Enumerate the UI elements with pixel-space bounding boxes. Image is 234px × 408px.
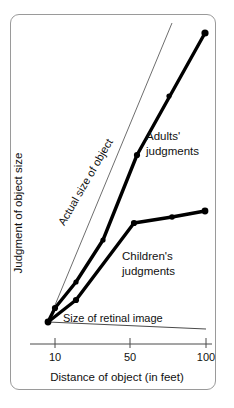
data-point-children [131, 220, 137, 226]
data-point-children [45, 319, 52, 326]
figure-container: 10 50 100 Distance of object (in feet) J… [0, 0, 234, 408]
data-point-adults [201, 29, 208, 36]
series-label-children-line2: judgments [122, 264, 175, 279]
series-label-children-line1: Children's [122, 249, 175, 264]
data-point-children [202, 208, 209, 215]
x-tick-label-50: 50 [115, 351, 145, 363]
data-point-children [73, 297, 79, 303]
y-axis-title: Judgment of object size [12, 113, 24, 313]
series-label-adults: Adults' judgments [146, 129, 199, 159]
x-axis-title: Distance of object (in feet) [0, 371, 234, 383]
series-label-adults-line2: judgments [146, 144, 199, 159]
data-point-adults [52, 305, 58, 311]
series-label-children: Children's judgments [122, 249, 175, 279]
data-point-children [169, 214, 175, 220]
data-point-adults [100, 237, 105, 242]
series-label-adults-line1: Adults' [146, 129, 199, 144]
chart-plot-area [0, 0, 234, 408]
data-point-adults [73, 279, 78, 284]
x-tick-label-100: 100 [190, 351, 222, 363]
annotation-size-of-retinal-image: Size of retinal image [63, 312, 163, 324]
data-point-adults [166, 93, 171, 98]
data-point-adults [134, 152, 140, 158]
x-tick-label-10: 10 [40, 351, 70, 363]
